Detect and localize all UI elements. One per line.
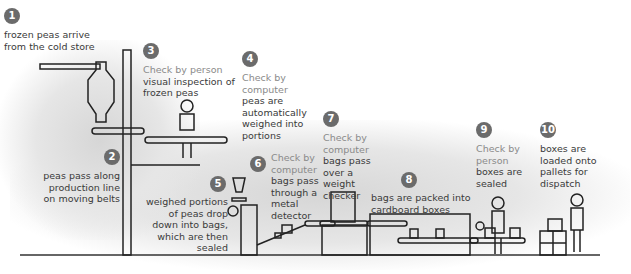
step-5-badge: 5 — [210, 176, 226, 192]
step-1-badge: 1 — [4, 8, 20, 24]
step-6-text: bags pass through a metal detector — [271, 175, 319, 221]
step-3-text: visual inspection of frozen peas — [143, 76, 235, 99]
step-8-label: bags are packed into cardboard boxes — [371, 192, 471, 215]
step-7-check: Check by computer — [323, 132, 387, 155]
hopper-icon — [88, 62, 114, 122]
step-3-badge: 3 — [143, 43, 159, 59]
step-9-badge: 9 — [476, 122, 492, 138]
step-7-label: Check by computer bags pass over a weigh… — [323, 132, 387, 201]
step-1-label: frozen peas arrive from the cold store — [4, 29, 114, 52]
step-9-label: Check by person boxes are sealed — [476, 143, 526, 189]
step-8-text: bags are packed into cardboard boxes — [371, 192, 471, 215]
step-7-badge: 7 — [323, 111, 339, 127]
feed-pipe — [40, 64, 100, 69]
step-2-label: peas pass along production line on movin… — [34, 170, 120, 205]
step-2-text: peas pass along production line on movin… — [43, 170, 120, 204]
step-2-badge: 2 — [104, 149, 120, 165]
step-5-label: weighed portions of peas drop down into … — [144, 196, 228, 254]
step-4-check: Check by computer — [242, 72, 306, 95]
step-10-text: boxes are loaded onto pallets for dispat… — [540, 143, 597, 189]
step-6-badge: 6 — [250, 156, 266, 172]
step-4-label: Check by computer peas are automatically… — [242, 72, 306, 141]
packing-station — [370, 214, 470, 255]
step-10-badge: 10 — [540, 122, 556, 138]
step-9-check: Check by person — [476, 143, 526, 166]
step-9-text: boxes are sealed — [476, 166, 522, 189]
step-3-check: Check by person — [143, 64, 243, 76]
step-5-text: weighed portions of peas drop down into … — [146, 196, 228, 253]
step-6-label: Check by computer bags pass through a me… — [271, 152, 331, 221]
step-3-label: Check by person visual inspection of fro… — [143, 64, 243, 99]
step-7-text: bags pass over a weight checker — [323, 155, 371, 201]
diagram: 1 frozen peas arrive from the cold store… — [0, 0, 631, 274]
step-10-label: boxes are loaded onto pallets for dispat… — [540, 143, 600, 189]
step-1-text: frozen peas arrive from the cold store — [4, 29, 95, 52]
step-6-check: Check by computer — [271, 152, 331, 175]
step-8-badge: 8 — [401, 172, 417, 188]
step-4-badge: 4 — [242, 51, 258, 67]
bagging-machine — [241, 205, 257, 255]
weigher-icon — [233, 178, 245, 192]
step-4-text: peas are automatically weighed into port… — [242, 95, 307, 141]
